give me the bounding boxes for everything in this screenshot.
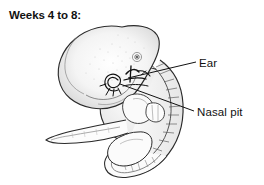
- embryo-illustration: [0, 0, 264, 185]
- page-title: Weeks 4 to 8:: [9, 9, 81, 21]
- label-nasal-pit: Nasal pit: [197, 106, 243, 118]
- label-ear: Ear: [199, 57, 217, 69]
- hand-plate: [146, 103, 165, 122]
